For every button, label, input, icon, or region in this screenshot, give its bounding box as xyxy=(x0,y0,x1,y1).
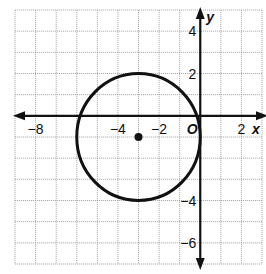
x-tick-label: −4 xyxy=(110,121,126,137)
origin-label: O xyxy=(187,121,198,137)
x-tick-label: −8 xyxy=(28,121,44,137)
center-point xyxy=(135,133,143,141)
x-axis-label: x xyxy=(251,121,261,137)
coordinate-plane: −8−4−2242−4−6Oxy xyxy=(0,0,266,274)
y-axis-up-arrow-icon xyxy=(196,7,205,19)
x-tick-label: 2 xyxy=(238,121,246,137)
y-axis-label: y xyxy=(205,9,215,25)
x-tick-label: −2 xyxy=(151,121,167,137)
axis-labels: −8−4−2242−4−6Oxy xyxy=(28,9,262,251)
x-axis-right-arrow-icon xyxy=(256,111,266,120)
y-tick-label: −6 xyxy=(180,235,196,251)
y-tick-label: 2 xyxy=(188,66,196,82)
y-tick-label: 4 xyxy=(188,23,196,39)
y-tick-label: −4 xyxy=(180,193,196,209)
